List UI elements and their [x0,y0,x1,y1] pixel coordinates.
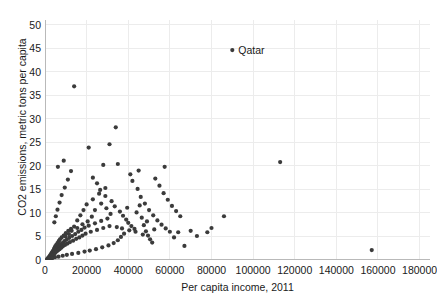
scatter-point [145,219,149,223]
point-annotation-label: Qatar [238,45,264,56]
scatter-point [163,165,167,169]
scatter-point [119,235,123,239]
scatter-point [129,224,133,228]
x-axis-tick-label: 120000 [277,264,312,276]
scatter-point [138,203,142,207]
x-axis-tick-labels: 0200004000060000800001000001200001400001… [0,264,437,278]
scatter-point [137,168,141,172]
scatter-point [91,197,95,201]
scatter-point [114,125,118,129]
scatter-point [139,195,143,199]
x-axis-title: Per capita income, 2011 [45,281,430,293]
scatter-point [89,230,93,234]
scatter-point [99,201,103,205]
scatter-point [101,163,105,167]
scatter-point [230,48,234,52]
scatter-point [176,230,180,234]
scatter-point [70,229,74,233]
scatter-point [56,255,60,259]
scatter-point [143,201,147,205]
scatter-point [150,240,154,244]
scatter-point [107,142,111,146]
scatter-point [112,241,116,245]
scatter-point [142,223,146,227]
scatter-point [97,192,101,196]
scatter-point [153,176,157,180]
scatter-point [65,253,69,257]
scatter-point [93,208,97,212]
scatter-chart-figure: CO2 emissions, metric tons per capita 05… [0,0,437,304]
scatter-point [118,209,122,213]
x-axis-tick-label: 20000 [72,264,101,276]
scatter-point [61,254,65,258]
scatter-point [113,204,117,208]
x-axis-tick-label: 140000 [319,264,354,276]
x-axis-tick-label: 80000 [197,264,226,276]
scatter-point [151,213,155,217]
scatter-point [189,229,193,233]
scatter-point [76,251,80,255]
scatter-point [60,193,64,197]
scatter-point [128,172,132,176]
scatter-point [91,176,95,180]
scatter-point [146,233,150,237]
x-axis-tick-label: 100000 [236,264,271,276]
y-axis-tick-label: 35 [15,90,41,101]
scatter-point [80,222,84,226]
scatter-point [209,226,213,230]
scatter-point [85,202,89,206]
scatter-point [66,177,70,181]
scatter-point [104,206,108,210]
scatter-point [127,228,131,232]
scatter-point [116,238,120,242]
scatter-point [166,198,170,202]
scatter-point [170,204,174,208]
scatter-point [56,165,60,169]
scatter-point [134,210,138,214]
scatter-point [168,230,172,234]
scatter-point [99,219,103,223]
scatter-point [69,169,73,173]
scatter-point [106,243,110,247]
scatter-point [93,221,97,225]
scatter-point [75,218,79,222]
scatter-point [82,249,86,253]
scatter-point [136,187,140,191]
y-axis-tick-label: 40 [15,66,41,77]
scatter-point [108,212,112,216]
scatter-point [57,200,61,204]
y-axis-tick-label: 15 [15,184,41,195]
scatter-point [122,232,126,236]
scatter-point [144,229,148,233]
scatter-point [86,219,90,223]
scatter-point [95,228,99,232]
y-axis-tick-label: 20 [15,160,41,171]
scatter-point [100,245,104,249]
scatter-point [164,226,168,230]
scatter-point [115,225,119,229]
scatter-point [72,84,76,88]
scatter-point [90,215,94,219]
scatter-point [67,232,71,236]
scatter-point [162,191,166,195]
scatter-point [121,214,125,218]
scatter-point [63,234,67,238]
x-axis-tick-label: 160000 [360,264,395,276]
scatter-point [52,220,56,224]
scatter-point [78,213,82,217]
scatter-point [195,234,199,238]
scatter-point [87,145,91,149]
scatter-point [81,208,85,212]
scatter-point [103,194,107,198]
scatter-point [107,224,111,228]
scatter-point [205,230,209,234]
scatter-point [62,159,66,163]
scatter-point [152,227,156,231]
scatter-point [174,209,178,213]
scatter-point [70,252,74,256]
scatter-point [94,247,98,251]
y-axis-tick-labels: 05101520253035404550 [14,0,41,304]
scatter-point [103,186,107,190]
y-axis-tick-label: 5 [15,231,41,242]
scatter-point [116,162,120,166]
